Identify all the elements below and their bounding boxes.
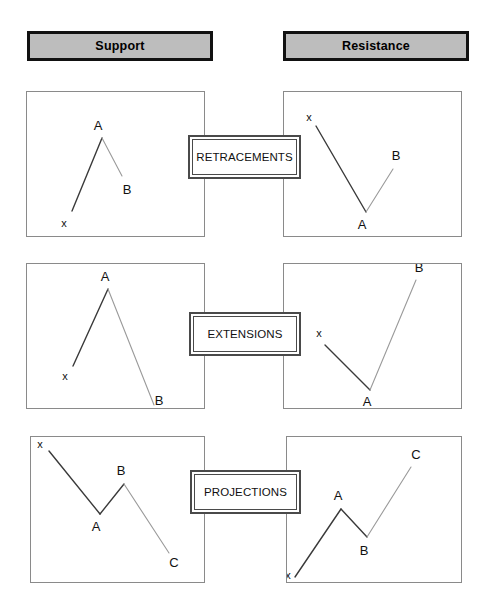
point-label-a: A bbox=[358, 217, 367, 232]
segment-x-A bbox=[72, 138, 102, 211]
chart-plot-support-retracements: xAB bbox=[27, 92, 206, 238]
point-label-x: x bbox=[316, 327, 322, 339]
chart-panel-support-retracements: xAB bbox=[26, 91, 205, 237]
chart-panel-resistance-extensions: xAB bbox=[283, 263, 462, 409]
chart-panel-support-projections: xABC bbox=[30, 436, 205, 583]
point-label-b: B bbox=[360, 543, 369, 558]
row-label-projections: PROJECTIONS bbox=[190, 470, 301, 514]
point-label-b: B bbox=[392, 148, 401, 163]
point-label-a: A bbox=[94, 118, 103, 133]
diagram-canvas: Support Resistance xABxABxABxABxABCxABC … bbox=[0, 0, 489, 613]
column-header-resistance-label: Resistance bbox=[342, 39, 410, 53]
column-header-resistance: Resistance bbox=[283, 31, 469, 61]
segment-x-A bbox=[316, 126, 366, 212]
segment-B-C bbox=[367, 467, 411, 537]
point-label-x: x bbox=[37, 438, 43, 450]
segment-B-C bbox=[124, 484, 169, 553]
column-header-support-label: Support bbox=[95, 39, 144, 53]
row-label-retracements: RETRACEMENTS bbox=[188, 135, 301, 179]
chart-plot-support-projections: xABC bbox=[31, 437, 206, 584]
chart-plot-resistance-projections: xABC bbox=[287, 437, 463, 584]
point-label-b: B bbox=[117, 463, 126, 478]
row-label-projections-text: PROJECTIONS bbox=[194, 474, 297, 510]
point-label-b: B bbox=[415, 264, 424, 275]
row-label-extensions-text: EXTENSIONS bbox=[193, 316, 297, 352]
row-label-extensions: EXTENSIONS bbox=[189, 312, 301, 356]
segment-A-B bbox=[108, 289, 154, 405]
point-label-a: A bbox=[92, 519, 101, 534]
chart-plot-resistance-retracements: xAB bbox=[284, 92, 463, 238]
point-label-c: C bbox=[411, 447, 420, 462]
segment-A-B bbox=[370, 280, 416, 390]
segment-A-B bbox=[366, 169, 393, 212]
point-label-a: A bbox=[334, 488, 343, 503]
point-label-x: x bbox=[306, 111, 312, 123]
chart-panel-resistance-projections: xABC bbox=[286, 436, 462, 583]
point-label-a: A bbox=[363, 394, 372, 409]
point-label-c: C bbox=[169, 555, 178, 570]
point-label-x: x bbox=[61, 217, 67, 229]
segment-x-A bbox=[73, 289, 108, 366]
chart-plot-resistance-extensions: xAB bbox=[284, 264, 463, 410]
segment-A-B bbox=[341, 509, 367, 537]
point-label-x: x bbox=[62, 370, 68, 382]
segment-A-B bbox=[100, 484, 124, 514]
point-label-b: B bbox=[123, 182, 132, 197]
point-label-x: x bbox=[287, 569, 291, 581]
point-label-b: B bbox=[155, 393, 164, 408]
chart-panel-support-extensions: xAB bbox=[26, 263, 205, 409]
chart-plot-support-extensions: xAB bbox=[27, 264, 206, 410]
segment-x-A bbox=[49, 451, 100, 514]
segment-x-A bbox=[325, 345, 370, 390]
row-label-retracements-text: RETRACEMENTS bbox=[192, 139, 297, 175]
segment-A-B bbox=[102, 138, 122, 176]
column-header-support: Support bbox=[27, 31, 213, 61]
point-label-a: A bbox=[101, 269, 110, 284]
chart-panel-resistance-retracements: xAB bbox=[283, 91, 462, 237]
segment-x-A bbox=[295, 509, 341, 577]
